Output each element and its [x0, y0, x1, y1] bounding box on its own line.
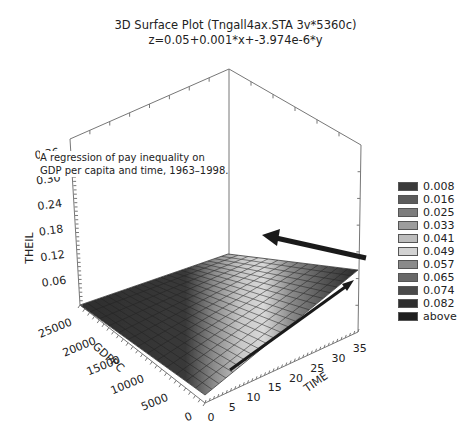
legend-item: 0.049	[398, 245, 457, 258]
tick-label: 30	[332, 352, 346, 365]
tick-label: 0	[208, 411, 215, 424]
legend-label: 0.025	[423, 206, 455, 219]
chart-annotation: A regression of pay inequality on GDP pe…	[40, 151, 228, 177]
legend: 0.0080.0160.0250.0330.0410.0490.0570.065…	[398, 180, 457, 323]
legend-label: 0.049	[423, 245, 455, 258]
legend-swatch	[398, 260, 418, 269]
legend-swatch	[398, 208, 418, 217]
tick-label: 0.18	[38, 222, 64, 238]
legend-swatch	[398, 286, 418, 295]
legend-label: 0.033	[423, 219, 455, 232]
legend-label: 0.008	[423, 180, 455, 193]
legend-swatch	[398, 247, 418, 256]
legend-item: 0.041	[398, 232, 457, 245]
legend-item: 0.025	[398, 206, 457, 219]
legend-label: above	[423, 310, 457, 323]
legend-swatch	[398, 182, 418, 191]
legend-item: 0.016	[398, 193, 457, 206]
tick-label: 0.06	[41, 274, 67, 290]
legend-item: 0.008	[398, 180, 457, 193]
tick-label: 5	[229, 401, 236, 414]
legend-item: 0.074	[398, 284, 457, 297]
tick-label: 0.12	[40, 248, 66, 264]
legend-item: 0.082	[398, 297, 457, 310]
legend-label: 0.065	[423, 271, 455, 284]
tick-label: 20	[289, 372, 303, 385]
z-axis-label: THEIL	[23, 231, 36, 264]
tick-label: 0	[183, 410, 194, 425]
legend-item: 0.065	[398, 271, 457, 284]
tick-label: 10000	[109, 372, 146, 397]
tick-label: 15	[268, 381, 282, 394]
legend-swatch	[398, 195, 418, 204]
tick-label: 0.24	[37, 197, 63, 213]
tick-label: 35	[353, 342, 367, 355]
legend-item: above	[398, 310, 457, 323]
legend-swatch	[398, 299, 418, 308]
legend-label: 0.074	[423, 284, 455, 297]
legend-label: 0.041	[423, 232, 455, 245]
legend-swatch	[398, 221, 418, 230]
legend-label: 0.016	[423, 193, 455, 206]
legend-label: 0.057	[423, 258, 455, 271]
legend-item: 0.033	[398, 219, 457, 232]
legend-swatch	[398, 312, 418, 321]
legend-swatch	[398, 234, 418, 243]
tick-label: 5000	[139, 391, 170, 414]
tick-label: 25000	[37, 315, 74, 340]
gdp-trend-arrow	[262, 229, 366, 258]
legend-item: 0.057	[398, 258, 457, 271]
legend-label: 0.082	[423, 297, 455, 310]
tick-label: 10	[247, 391, 261, 404]
legend-swatch	[398, 273, 418, 282]
